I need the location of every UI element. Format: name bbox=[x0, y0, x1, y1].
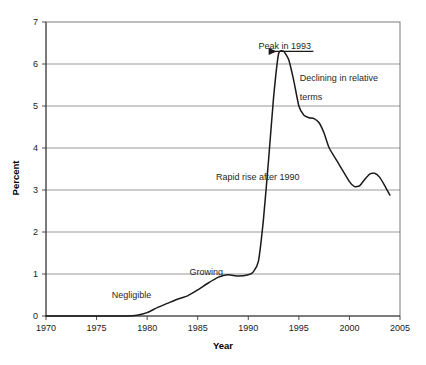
y-axis-title-group: Percent bbox=[10, 160, 21, 196]
annotation-negligible: Negligible bbox=[112, 290, 152, 300]
y-tick-label-7: 7 bbox=[33, 17, 38, 27]
y-tick-label-4: 4 bbox=[33, 143, 38, 153]
annotation-label-declining-relative: Declining in relative bbox=[300, 73, 378, 83]
y-tick-label-5: 5 bbox=[33, 101, 38, 111]
y-tick-label-1: 1 bbox=[33, 269, 38, 279]
y-axis-ticks: 01234567 bbox=[33, 17, 46, 321]
x-tick-label-1995: 1995 bbox=[289, 323, 309, 333]
y-tick-label-3: 3 bbox=[33, 185, 38, 195]
chart-container: 01234567 1970197519801985199019952000200… bbox=[0, 0, 426, 365]
x-tick-label-1990: 1990 bbox=[238, 323, 258, 333]
x-tick-label-1970: 1970 bbox=[36, 323, 56, 333]
percent-by-year-line-chart: 01234567 1970197519801985199019952000200… bbox=[0, 0, 426, 365]
y-axis-title: Percent bbox=[10, 160, 21, 196]
y-tick-label-0: 0 bbox=[33, 311, 38, 321]
annotation-label-growing: Growing bbox=[190, 267, 224, 277]
annotation-label-rapid-rise: Rapid rise after 1990 bbox=[216, 172, 300, 182]
y-tick-label-6: 6 bbox=[33, 59, 38, 69]
annotation-label-peak-1993: Peak in 1993 bbox=[258, 41, 311, 51]
y-tick-label-2: 2 bbox=[33, 227, 38, 237]
x-tick-label-2005: 2005 bbox=[390, 323, 410, 333]
x-tick-label-1975: 1975 bbox=[87, 323, 107, 333]
x-axis-title-group: Year bbox=[213, 340, 233, 351]
x-axis-ticks: 19701975198019851990199520002005 bbox=[36, 316, 410, 333]
annotation-label-declining-relative-2: terms bbox=[300, 92, 323, 102]
annotation-label-negligible: Negligible bbox=[112, 290, 152, 300]
annotation-declining-relative-2: terms bbox=[300, 92, 323, 102]
x-tick-label-1980: 1980 bbox=[137, 323, 157, 333]
x-tick-label-2000: 2000 bbox=[339, 323, 359, 333]
annotation-growing: Growing bbox=[190, 267, 224, 277]
annotation-declining-relative: Declining in relative bbox=[300, 73, 378, 83]
x-tick-label-1985: 1985 bbox=[188, 323, 208, 333]
annotation-rapid-rise: Rapid rise after 1990 bbox=[216, 172, 300, 182]
x-axis-title: Year bbox=[213, 340, 233, 351]
